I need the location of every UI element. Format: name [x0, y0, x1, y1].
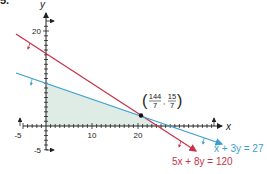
x-tick-label: -5 — [14, 131, 22, 140]
svg-text:(: ( — [142, 92, 148, 109]
svg-text:7: 7 — [170, 101, 174, 110]
x-tick-label: 20 — [134, 131, 143, 140]
intersection-label: ( 144 7 , 15 7 ) — [142, 92, 182, 110]
y-axis-label: y — [39, 0, 46, 10]
y-axis: y 20 -5 — [32, 0, 54, 155]
svg-text:15: 15 — [168, 92, 176, 101]
y-tick-label: 20 — [32, 27, 41, 36]
x-axis-label: x — [225, 121, 232, 132]
line-x-3y-27-label: x + 3y = 27 — [214, 143, 264, 154]
y-tick-label: -5 — [34, 146, 42, 155]
svg-text:,: , — [163, 97, 165, 106]
line-5x-8y-120-label: 5x + 8y = 120 — [172, 156, 233, 167]
svg-text:): ) — [177, 92, 182, 109]
linear-programming-graph: 5. — [0, 0, 267, 174]
x-tick-label: 10 — [88, 131, 97, 140]
svg-text:7: 7 — [153, 101, 157, 110]
svg-text:144: 144 — [149, 92, 162, 101]
chart-canvas: x -5 10 20 — [0, 0, 267, 174]
intersection-point — [139, 113, 143, 117]
problem-number: 5. — [0, 0, 9, 6]
